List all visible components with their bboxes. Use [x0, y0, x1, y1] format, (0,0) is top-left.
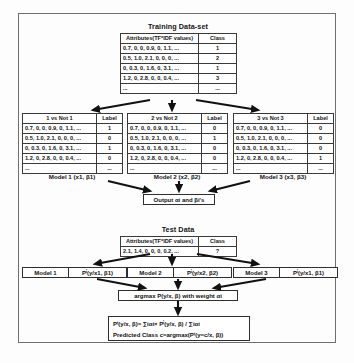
ovr3-header-label: Label: [308, 114, 334, 124]
cell-attributes: 0, 0.3, 0, 1.6, 0, 3.1, ...: [128, 144, 202, 154]
table-row: 0, 0.3, 0, 1.6, 0, 3.1, ... 1: [23, 144, 123, 154]
training-header-class: Class: [199, 34, 237, 44]
test-model-3-probability: Pⁱ(y/x1, β1): [280, 267, 338, 278]
argmax-weight-box: argmax P(y/x, β) with weight αi: [118, 290, 238, 301]
cell-label: 0: [97, 134, 123, 144]
table-row: 1.2, 0, 2.8, 0, 0, 0.4, ... 0: [128, 154, 228, 164]
test-model-3-name: Model 3: [233, 267, 280, 278]
cell-attributes: 0, 0.3, 0, 1.6, 0, 3.1, ...: [121, 64, 199, 74]
test-model-3-row: Model 3 Pⁱ(y/x1, β1): [233, 267, 338, 278]
model-3-caption: Model 3 (x3, β3): [233, 173, 333, 180]
test-model-1-probability: Pⁱ(y/x1, β1): [69, 267, 127, 278]
table-row: 1.2, 0, 2.8, 0, 0, 0.4, ... 0: [23, 154, 123, 164]
cell-class: 1: [199, 44, 237, 54]
test-model-1-name: Model 1: [22, 267, 69, 278]
cell-label: 1: [97, 124, 123, 134]
cell-class: ...: [199, 84, 237, 94]
test-model-2-row: Model 2 Pⁱ(y/x2, β2): [127, 267, 232, 278]
table-row: 1.2, 0, 2.8, 0, 0, 0.4, ... 1: [234, 154, 334, 164]
cell-label: 1: [308, 154, 334, 164]
cell-attributes: 0, 0.3, 0, 1.6, 0, 3.1, ...: [23, 144, 97, 154]
cell-label: ...: [97, 164, 123, 174]
training-data-table: Attributes(TF*IDF values) Class 0.7, 0, …: [120, 33, 237, 94]
one-vs-rest-table-2: 2 vs Not 2 Label 0.7, 0, 0, 0.9, 0, 1.1,…: [127, 113, 228, 174]
cell-label: 0: [202, 144, 228, 154]
ovr2-header-label: Label: [202, 114, 228, 124]
table-row: 2.1, 1.4, 0, 0, 0, 0.2, ... ?: [121, 247, 237, 257]
table-row: 0, 0.3, 0, 1.6, 0, 3.1, ... 0: [128, 144, 228, 154]
test-model-2-name: Model 2: [127, 267, 174, 278]
cell-attributes: 1.2, 0, 2.8, 0, 0, 0.4, ...: [234, 154, 308, 164]
cell-attributes: 0.7, 0, 0, 0.9, 0, 1.1, ...: [23, 124, 97, 134]
output-alpha-beta-box: Output αi and βi's: [143, 194, 215, 205]
table-row: 0.7, 0, 0, 0.9, 0, 1.1, ... 1: [121, 44, 237, 54]
ovr1-header-name: 1 vs Not 1: [23, 114, 97, 124]
test-header-attributes: Attributes(TF*IDF values): [121, 237, 199, 247]
table-row: 0.5, 1.0, 2.1, 0, 0, 0, ... 0: [23, 134, 123, 144]
cell-attributes: 0.5, 1.0, 2.1, 0, 0, 0, ...: [128, 134, 202, 144]
cell-label: 1: [202, 134, 228, 144]
ovr1-header-label: Label: [97, 114, 123, 124]
table-row: 0.5, 1.0, 2.1, 0, 0, 0, ... 2: [121, 54, 237, 64]
table-row: 0, 0.3, 0, 1.6, 0, 3.1, ... 0: [234, 144, 334, 154]
table-row: 0, 0.3, 0, 1.6, 0, 3.1, ... 1: [121, 64, 237, 74]
table-row: ... ...: [121, 84, 237, 94]
training-dataset-title: Training Data-set: [120, 22, 236, 31]
cell-class: 3: [199, 74, 237, 84]
one-vs-rest-table-1: 1 vs Not 1 Label 0.7, 0, 0, 0.9, 0, 1.1,…: [22, 113, 123, 174]
final-prediction-box: Pᵗ(y/x, β)= ∑iαi× Pⁱ(y/x, β) / ∑iαi Pred…: [108, 316, 250, 341]
diagram-canvas: Training Data-set Attributes(TF*IDF valu…: [0, 0, 354, 363]
cell-class: ?: [199, 247, 237, 257]
cell-attributes: ...: [23, 164, 97, 174]
cell-label: ...: [308, 164, 334, 174]
final-formula-line-2: Predicted Class c=argmax(Pᵗ(y=c/x, β)): [113, 330, 245, 341]
cell-label: ...: [202, 164, 228, 174]
cell-attributes: 0.5, 1.0, 2.1, 0, 0, 0, ...: [23, 134, 97, 144]
table-header-row: 2 vs Not 2 Label: [128, 114, 228, 124]
ovr3-header-name: 3 vs Not 3: [234, 114, 308, 124]
table-header-row: 1 vs Not 1 Label: [23, 114, 123, 124]
cell-label: 0: [97, 154, 123, 164]
cell-attributes: 0.5, 1.0, 2.1, 0, 0, 0, ...: [121, 54, 199, 64]
cell-attributes: 0.7, 0, 0, 0.9, 0, 1.1, ...: [121, 44, 199, 54]
table-row: ... ...: [234, 164, 334, 174]
table-row: 0.7, 0, 0, 0.9, 0, 1.1, ... 0: [128, 124, 228, 134]
cell-label: 0: [202, 124, 228, 134]
one-vs-rest-table-3: 3 vs Not 3 Label 0.7, 0, 0, 0.9, 0, 1.1,…: [233, 113, 334, 174]
table-row: 0.5, 1.0, 2.1, 0, 0, 0, ... 1: [128, 134, 228, 144]
cell-attributes: 0.5, 1.0, 2.1, 0, 0, 0, ...: [234, 134, 308, 144]
table-row: ... ...: [23, 164, 123, 174]
test-data-title: Test Data: [120, 225, 236, 234]
table-row: 0.7, 0, 0, 0.9, 0, 1.1, ... 0: [234, 124, 334, 134]
cell-label: 0: [202, 154, 228, 164]
model-2-caption: Model 2 (x2, β2): [127, 173, 227, 180]
cell-label: 0: [308, 134, 334, 144]
cell-attributes: 1.2, 0, 2.8, 0, 0, 0.4, ...: [23, 154, 97, 164]
table-row: 1.2, 0, 2.8, 0, 0, 0.4, ... 3: [121, 74, 237, 84]
cell-attributes: ...: [128, 164, 202, 174]
cell-attributes: 1.2, 0, 2.8, 0, 0, 0.4, ...: [128, 154, 202, 164]
ovr2-header-name: 2 vs Not 2: [128, 114, 202, 124]
test-model-1-row: Model 1 Pⁱ(y/x1, β1): [22, 267, 127, 278]
test-data-table: Attributes(TF*IDF values) Class 2.1, 1.4…: [120, 236, 237, 257]
cell-label: 1: [97, 144, 123, 154]
cell-attributes: 0.7, 0, 0, 0.9, 0, 1.1, ...: [128, 124, 202, 134]
table-row: ... ...: [128, 164, 228, 174]
cell-attributes: 2.1, 1.4, 0, 0, 0, 0.2, ...: [121, 247, 199, 257]
test-header-class: Class: [199, 237, 237, 247]
table-row: 0.5, 1.0, 2.1, 0, 0, 0, ... 0: [234, 134, 334, 144]
cell-label: 0: [308, 144, 334, 154]
table-header-row: Attributes(TF*IDF values) Class: [121, 237, 237, 247]
cell-class: 1: [199, 64, 237, 74]
cell-attributes: ...: [121, 84, 199, 94]
cell-label: 0: [308, 124, 334, 134]
test-model-2-probability: Pⁱ(y/x2, β2): [174, 267, 232, 278]
table-row: 0.7, 0, 0, 0.9, 0, 1.1, ... 1: [23, 124, 123, 134]
cell-attributes: ...: [234, 164, 308, 174]
cell-attributes: 0, 0.3, 0, 1.6, 0, 3.1, ...: [234, 144, 308, 154]
cell-attributes: 0.7, 0, 0, 0.9, 0, 1.1, ...: [234, 124, 308, 134]
training-header-attributes: Attributes(TF*IDF values): [121, 34, 199, 44]
cell-class: 2: [199, 54, 237, 64]
model-1-caption: Model 1 (x1, β1): [22, 173, 122, 180]
final-formula-line-1: Pᵗ(y/x, β)= ∑iαi× Pⁱ(y/x, β) / ∑iαi: [113, 319, 245, 330]
